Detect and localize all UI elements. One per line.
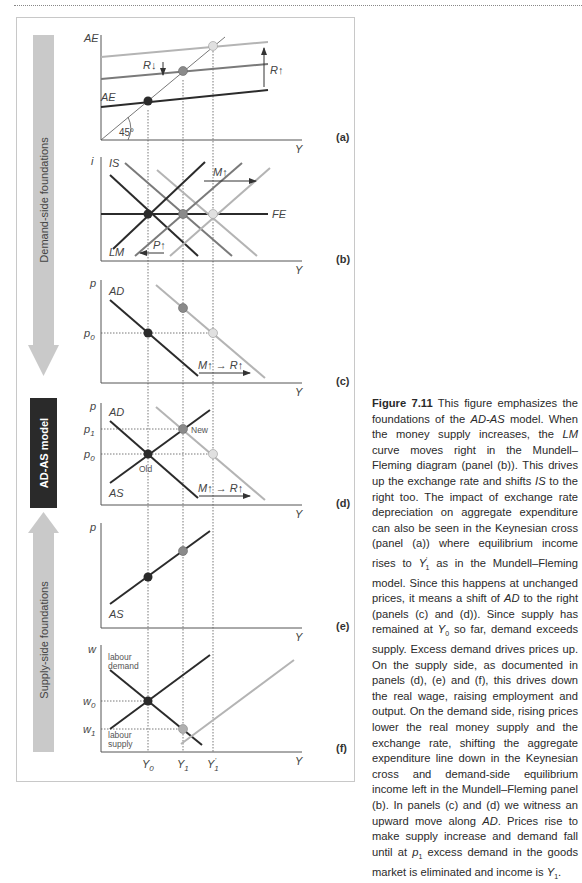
ae-line-old (101, 90, 268, 107)
point-new (179, 547, 188, 556)
tick-y1: Y1 (177, 758, 189, 773)
panel-tag-b: (b) (336, 253, 350, 265)
axis-label-y: Y (295, 631, 303, 643)
equilibrium-mid (179, 67, 188, 76)
axis-label-y: Y (295, 508, 303, 520)
supply-side-label: Supply-side foundations (38, 581, 50, 699)
curve-label-is: IS (109, 157, 120, 169)
shift-label-r-up: R↑ (270, 64, 283, 76)
panel-a: AE Y (a) 45° AE R↓ R↑ (83, 32, 350, 155)
equilibrium-new (179, 425, 188, 434)
curve-label-as: AS (108, 608, 124, 620)
guide-lines (148, 48, 213, 752)
equilibrium-new (209, 210, 218, 219)
sidebar: Demand-side foundations AD-AS model Supp… (28, 35, 59, 752)
angle-label: 45° (119, 127, 134, 138)
new-label: New (191, 425, 209, 435)
supply-side-arrow: Supply-side foundations (28, 512, 59, 752)
shift-label: M↑ → R↑ (198, 359, 243, 371)
equilibrium-mid (179, 210, 188, 219)
tick-w0: w0 (83, 695, 96, 710)
panel-tag-f: (f) (336, 742, 347, 754)
shift-label-r-down: R↓ (143, 59, 156, 71)
tick-w1: w1 (83, 723, 95, 738)
axis-label-y: Y (295, 755, 303, 767)
tick-p1: p1 (83, 423, 95, 438)
curve-label-lm: LM (109, 246, 125, 258)
equilibrium-old (144, 210, 153, 219)
axis-label-y: Y (295, 264, 303, 276)
figure-diagram: Demand-side foundations AD-AS model Supp… (0, 0, 360, 793)
equilibrium-new (209, 42, 218, 51)
axis-label-y: Y (295, 143, 303, 155)
point-shifted (209, 450, 218, 459)
tick-p0: p0 (83, 327, 95, 342)
axis-label-ae: AE (83, 32, 99, 44)
curve-label-ad: AD (108, 406, 124, 418)
shift-label-m-up: M↑ (213, 166, 228, 178)
point-mid (179, 304, 188, 313)
panel-tag-a: (a) (336, 131, 350, 143)
figure-number: Figure 7.11 (372, 397, 433, 409)
panel-tag-c: (c) (336, 375, 350, 387)
axis-label-w: w (88, 643, 97, 655)
equilibrium-old (144, 450, 153, 459)
axis-label-p: p (89, 277, 96, 289)
labour-supply-line-new (181, 660, 294, 744)
shift-label-p-up: P↑ (153, 239, 166, 251)
labour-demand-label-2: demand (108, 661, 139, 671)
ae-line-new (101, 42, 268, 57)
demand-side-arrow: Demand-side foundations (28, 35, 59, 376)
panel-e: p Y (e) AS (89, 521, 350, 643)
equilibrium-old (144, 329, 153, 338)
demand-side-label: Demand-side foundations (38, 137, 50, 263)
panel-f: w Y (f) w0 w1 labour demand labour suppl… (83, 643, 347, 773)
equilibrium-old (144, 697, 153, 706)
curve-label-ad: AD (108, 285, 124, 297)
panel-b: i Y (b) FE IS LM M↑ P↑ (91, 155, 350, 276)
tick-y0: Y0 (142, 758, 154, 773)
curve-label-fe: FE (272, 208, 287, 220)
panel-tag-d: (d) (336, 497, 350, 509)
point-old (144, 573, 153, 582)
tick-p0: p0 (83, 448, 95, 463)
panel-c: p Y (c) p0 AD M↑ → R↑ (83, 277, 350, 398)
ad-as-model-label: AD-AS model (38, 418, 50, 488)
line-45-degree (101, 37, 225, 140)
tick-y1-prime: Y1' (207, 757, 219, 773)
axis-label-p: p (89, 521, 96, 533)
labour-supply-label-2: supply (108, 739, 133, 749)
panel-tag-e: (e) (336, 620, 350, 632)
axis-label-y: Y (295, 386, 303, 398)
curve-label-as: AS (108, 487, 124, 499)
ad-as-model-box: AD-AS model (30, 398, 57, 508)
equilibrium-new (179, 725, 188, 734)
figure-caption: Figure 7.11 This figure emphasizes the f… (372, 396, 578, 883)
panel-d: p Y (d) p1 p0 AD AS M↑ → R↑ Old New (83, 400, 350, 520)
axis-label-i: i (91, 155, 94, 167)
as-line (110, 410, 210, 483)
axis-label-p: p (89, 400, 96, 412)
equilibrium-old (144, 97, 153, 106)
curve-label-ae: AE (100, 91, 116, 103)
old-label: Old (139, 464, 153, 474)
shift-label: M↑ → R↑ (198, 482, 243, 494)
as-line (110, 531, 210, 604)
equilibrium-new (209, 329, 218, 338)
